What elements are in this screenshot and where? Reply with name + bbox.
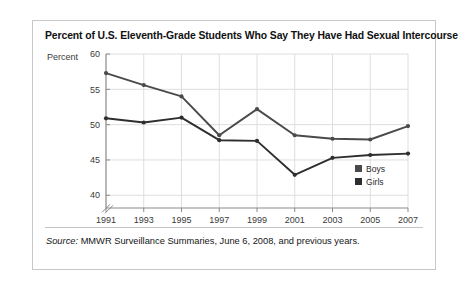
- figure-panel: Percent of U.S. Eleventh-Grade Students …: [32, 20, 436, 270]
- x-tick-label: 1995: [171, 215, 191, 225]
- data-point-boys: [255, 107, 259, 111]
- data-point-boys: [179, 94, 183, 98]
- data-point-boys: [142, 83, 146, 87]
- source-label: Source:: [46, 236, 78, 246]
- data-point-boys: [368, 137, 372, 141]
- x-tick-label: 2003: [322, 215, 342, 225]
- data-point-girls: [104, 116, 108, 120]
- data-point-girls: [142, 120, 146, 124]
- data-point-boys: [293, 133, 297, 137]
- y-tick-label: 45: [90, 155, 100, 165]
- legend-label-boys: Boys: [366, 164, 385, 174]
- x-tick-label: 2007: [398, 215, 418, 225]
- data-point-girls: [179, 115, 183, 119]
- legend-swatch-boys: [355, 165, 362, 172]
- data-point-boys: [104, 71, 108, 75]
- footer-divider: [45, 227, 423, 228]
- data-point-boys: [330, 137, 334, 141]
- legend-swatch-girls: [355, 178, 362, 185]
- chart-title: Percent of U.S. Eleventh-Grade Students …: [45, 30, 429, 41]
- y-tick-label: 60: [90, 49, 100, 59]
- x-tick-label: 2005: [360, 215, 380, 225]
- data-point-girls: [255, 139, 259, 143]
- x-tick-label: 1993: [134, 215, 154, 225]
- y-tick-label: 55: [90, 85, 100, 95]
- data-point-girls: [406, 152, 410, 156]
- data-point-boys: [217, 133, 221, 137]
- data-point-girls: [368, 153, 372, 157]
- source-note: Source: MMWR Surveillance Summaries, Jun…: [46, 236, 360, 246]
- plot-area: Percent 40455055601991199319951997199920…: [33, 45, 437, 230]
- data-point-girls: [217, 138, 221, 142]
- x-tick-label: 1997: [209, 215, 229, 225]
- y-tick-label: 40: [90, 190, 100, 200]
- source-body: MMWR Surveillance Summaries, June 6, 200…: [78, 236, 360, 246]
- data-point-girls: [293, 173, 297, 177]
- x-tick-label: 2001: [285, 215, 305, 225]
- legend-label-girls: Girls: [366, 177, 384, 187]
- x-tick-label: 1991: [96, 215, 116, 225]
- data-point-girls: [330, 156, 334, 160]
- x-tick-label: 1999: [247, 215, 267, 225]
- line-chart: 4045505560199119931995199719992001200320…: [33, 45, 437, 230]
- data-point-boys: [406, 124, 410, 128]
- y-tick-label: 50: [90, 120, 100, 130]
